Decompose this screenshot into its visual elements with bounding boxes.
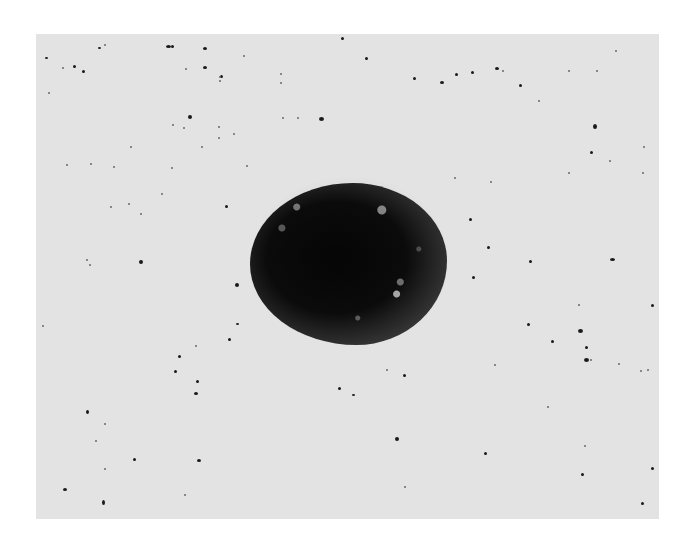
speck: [282, 117, 284, 119]
speck: [203, 66, 207, 69]
speck: [133, 458, 136, 461]
speck: [615, 50, 617, 52]
speck: [578, 329, 583, 333]
speck: [188, 115, 192, 119]
speck: [62, 67, 64, 69]
speck: [487, 246, 490, 249]
speck: [641, 502, 644, 505]
speck: [63, 488, 67, 491]
speck: [219, 76, 221, 78]
speck: [82, 70, 85, 73]
speck: [643, 146, 645, 148]
speck: [233, 133, 235, 135]
speck: [502, 70, 504, 72]
speck: [529, 260, 532, 263]
speck: [236, 323, 239, 325]
speck: [139, 260, 143, 264]
speck: [404, 486, 406, 488]
speck: [66, 164, 68, 166]
speck: [590, 151, 593, 154]
speck: [651, 304, 654, 307]
dark-particle: [250, 183, 447, 345]
speck: [519, 84, 522, 87]
speck: [386, 369, 388, 371]
speck: [194, 392, 198, 395]
speck: [578, 304, 580, 306]
speck: [95, 440, 97, 442]
speck: [527, 323, 530, 326]
speck: [110, 206, 112, 208]
speck: [174, 370, 177, 373]
speck: [98, 47, 101, 49]
speck: [130, 146, 132, 148]
speck: [472, 276, 475, 279]
speck: [568, 172, 570, 174]
speck: [104, 44, 106, 46]
speck: [235, 283, 239, 287]
speck: [590, 359, 592, 361]
speck: [183, 127, 185, 129]
speck: [551, 340, 554, 343]
speck: [365, 57, 368, 60]
speck: [352, 394, 355, 396]
speck: [171, 167, 173, 169]
specimen-field: [36, 34, 659, 519]
speck: [128, 203, 130, 205]
speck: [196, 380, 199, 383]
speck: [89, 264, 91, 266]
speck: [48, 92, 50, 94]
speck: [585, 346, 588, 349]
speck: [140, 213, 142, 215]
speck: [218, 126, 220, 128]
speck: [494, 364, 496, 366]
speck: [610, 258, 615, 261]
speck: [403, 374, 406, 377]
speck: [73, 65, 76, 68]
speck: [104, 423, 106, 425]
speck: [319, 117, 324, 121]
speck: [203, 47, 207, 50]
speck: [195, 345, 197, 347]
speck: [113, 166, 115, 168]
speck: [642, 172, 644, 174]
speck: [581, 473, 584, 476]
speck: [647, 369, 649, 371]
speck: [547, 406, 549, 408]
speck: [495, 67, 499, 70]
speck: [584, 445, 586, 447]
speck: [185, 68, 187, 70]
speck: [45, 57, 48, 59]
speck: [90, 163, 92, 165]
speck: [171, 45, 174, 48]
speck: [454, 177, 456, 179]
speck: [184, 494, 186, 496]
speck: [243, 55, 245, 57]
speck: [469, 218, 472, 221]
speck: [280, 82, 282, 84]
speck: [538, 100, 540, 102]
speck: [640, 370, 642, 372]
speck: [42, 325, 44, 327]
speck: [651, 467, 654, 470]
speck: [104, 468, 106, 470]
speck: [609, 160, 611, 162]
speck: [280, 73, 282, 75]
speck: [338, 387, 341, 390]
speck: [161, 193, 163, 195]
speck: [584, 358, 589, 362]
speck: [225, 205, 228, 208]
speck: [440, 81, 444, 84]
speck: [593, 124, 597, 129]
speck: [341, 37, 344, 40]
speck: [568, 70, 570, 72]
speck: [297, 117, 299, 119]
speck: [471, 71, 474, 74]
speck: [86, 259, 88, 261]
speck: [246, 165, 248, 167]
speck: [201, 146, 203, 148]
speck: [102, 500, 105, 505]
speck: [218, 137, 220, 139]
speck: [455, 73, 458, 76]
speck: [228, 338, 231, 341]
speck: [596, 70, 598, 72]
